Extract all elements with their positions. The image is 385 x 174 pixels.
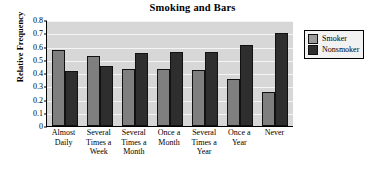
- bar-group: [117, 21, 152, 126]
- bar-smoker[interactable]: [122, 69, 135, 126]
- y-axis-tick-label: 0: [39, 123, 43, 131]
- x-axis-tick-labels: AlmostDailySeveralTimes aWeekSeveralTime…: [46, 128, 292, 172]
- bar-nonsmoker[interactable]: [100, 66, 113, 126]
- bar-nonsmoker[interactable]: [65, 71, 78, 126]
- x-axis-label: SeveralTimes aWeek: [81, 128, 116, 172]
- x-axis-label: Never: [257, 128, 292, 172]
- y-axis-tick-label: 0.5: [33, 57, 43, 65]
- bar-nonsmoker[interactable]: [135, 53, 148, 126]
- x-axis-label: AlmostDaily: [46, 128, 81, 172]
- legend-item-smoker[interactable]: Smoker: [308, 34, 359, 44]
- plot-area: 00.10.20.30.40.50.60.70.8: [46, 21, 293, 127]
- y-axis-tick-label: 0.2: [33, 97, 43, 105]
- x-axis-label: SeveralTimes aMonth: [116, 128, 151, 172]
- legend-label: Nonsmoker: [322, 46, 359, 54]
- bar-chart: Smoking and Bars Relative Frequency 00.1…: [0, 0, 385, 174]
- bar-nonsmoker[interactable]: [275, 33, 288, 126]
- bar-group: [258, 21, 293, 126]
- legend: SmokerNonsmoker: [304, 30, 364, 59]
- bar-group: [223, 21, 258, 126]
- bar-smoker[interactable]: [87, 56, 100, 126]
- bar-smoker[interactable]: [192, 70, 205, 126]
- bar-smoker[interactable]: [157, 69, 170, 126]
- bar-nonsmoker[interactable]: [240, 45, 253, 126]
- bar-smoker[interactable]: [52, 50, 65, 126]
- y-axis-tick-label: 0.7: [33, 30, 43, 38]
- legend-label: Smoker: [322, 35, 347, 43]
- legend-item-nonsmoker[interactable]: Nonsmoker: [308, 45, 359, 55]
- x-axis-label: SeveralTimes aYear: [187, 128, 222, 172]
- legend-swatch-icon: [308, 34, 318, 44]
- y-axis-tick-label: 0.3: [33, 83, 43, 91]
- y-axis-tick-label: 0.4: [33, 70, 43, 78]
- y-axis-title: Relative Frequency: [15, 0, 25, 100]
- x-axis-label: Once aYear: [222, 128, 257, 172]
- bar-group: [47, 21, 82, 126]
- bar-group: [82, 21, 117, 126]
- x-axis-label: Once aMonth: [151, 128, 186, 172]
- bar-smoker[interactable]: [227, 79, 240, 126]
- y-axis-tick-label: 0.6: [33, 44, 43, 52]
- bar-series-container: [47, 21, 293, 126]
- y-axis-tick-label: 0.8: [33, 17, 43, 25]
- bar-nonsmoker[interactable]: [170, 52, 183, 126]
- y-axis-tick-label: 0.1: [33, 110, 43, 118]
- bar-group: [188, 21, 223, 126]
- chart-title: Smoking and Bars: [0, 2, 385, 13]
- legend-swatch-icon: [308, 45, 318, 55]
- bar-smoker[interactable]: [262, 92, 275, 126]
- bar-group: [152, 21, 187, 126]
- bar-nonsmoker[interactable]: [205, 52, 218, 126]
